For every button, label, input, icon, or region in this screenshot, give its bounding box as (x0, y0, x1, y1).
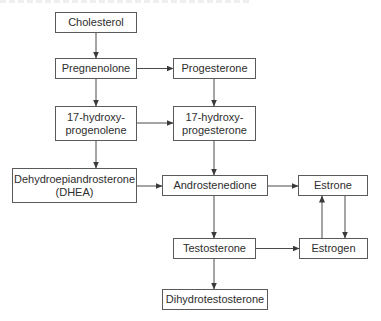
node-label-line2: progesterone (182, 124, 247, 137)
node-cholesterol: Cholesterol (55, 12, 137, 33)
node-label: Estrogen (311, 242, 355, 255)
node-label-line2: (DHEA) (56, 186, 94, 199)
node-label-line2: progenolene (65, 124, 126, 137)
node-androstenedione: Androstenedione (162, 175, 268, 196)
node-estrone: Estrone (298, 175, 368, 196)
node-label: Pregnenolone (62, 62, 131, 75)
node-label: Cholesterol (68, 16, 124, 29)
node-label: Testosterone (183, 242, 246, 255)
node-label: Androstenedione (173, 179, 256, 192)
node-label: Dihydrotestosterone (166, 293, 264, 306)
node-17-hydroxy-progenolene: 17-hydroxy- progenolene (55, 106, 137, 141)
node-17-hydroxy-progesterone: 17-hydroxy- progesterone (173, 106, 256, 141)
node-dihydrotestosterone: Dihydrotestosterone (162, 289, 268, 310)
node-label: Progesterone (181, 62, 247, 75)
node-pregnenolone: Pregnenolone (55, 58, 137, 79)
node-dhea: Dehydroepiandrosterone (DHEA) (12, 168, 137, 203)
node-label-line1: 17-hydroxy- (185, 111, 243, 124)
diagram-edges (0, 0, 381, 321)
node-label-line1: Dehydroepiandrosterone (14, 173, 135, 186)
node-progesterone: Progesterone (173, 58, 256, 79)
node-estrogen: Estrogen (299, 238, 368, 259)
node-testosterone: Testosterone (173, 238, 256, 259)
node-label: Estrone (314, 179, 352, 192)
node-label-line1: 17-hydroxy- (67, 111, 125, 124)
